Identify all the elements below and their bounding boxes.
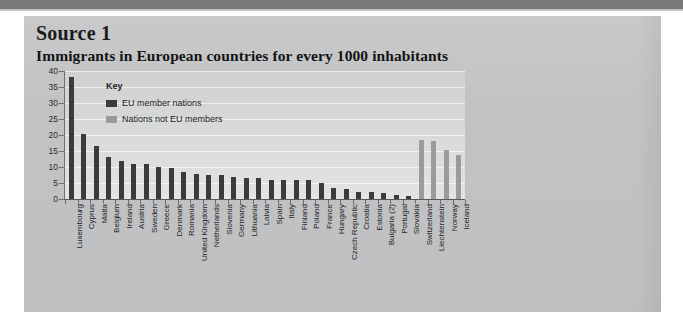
bar — [431, 141, 436, 199]
x-axis-label: Czech Republic — [350, 204, 359, 260]
x-axis-label: Sweden — [150, 204, 159, 233]
bar — [269, 180, 274, 199]
legend-swatch-non — [106, 116, 117, 123]
bar — [394, 195, 399, 199]
x-axis-label: Estonia — [375, 204, 384, 231]
legend-items: EU member nationsNations not EU members — [106, 98, 281, 124]
x-axis-label: Greece — [162, 204, 171, 230]
y-tick-mark — [59, 71, 64, 72]
x-axis-label: Cyprus — [87, 204, 96, 229]
x-axis-labels: LuxembourgCyprusMaltaBelgiumIrelandAustr… — [65, 204, 465, 296]
y-tick-mark — [59, 199, 64, 200]
y-tick-mark — [59, 87, 64, 88]
x-axis-label: Malta — [100, 204, 109, 224]
x-axis-label: Slovenia — [225, 204, 234, 235]
bar — [244, 178, 249, 199]
y-tick-mark — [59, 135, 64, 136]
legend-swatch-eu — [106, 100, 117, 107]
source-title: Source 1 — [36, 22, 111, 45]
bar — [219, 175, 224, 199]
x-axis-label: Portugal — [400, 204, 409, 234]
x-axis-label: France — [325, 204, 334, 229]
legend-item: Nations not EU members — [106, 114, 281, 124]
x-axis-label: Ireland — [125, 204, 134, 228]
y-tick-mark — [59, 151, 64, 152]
x-axis-label: Hungary — [337, 204, 346, 234]
x-axis-label: Luxembourg — [75, 204, 84, 248]
x-axis-label: Bulgaria (2) — [387, 204, 396, 245]
bar — [331, 188, 336, 199]
x-axis-label: United Kingdom — [200, 204, 209, 261]
bar — [256, 178, 261, 199]
x-axis-label: Latvia — [262, 204, 271, 225]
bar — [319, 183, 324, 199]
x-axis-label: Spain — [275, 204, 284, 224]
bar — [156, 167, 161, 199]
bar — [294, 180, 299, 199]
x-axis-label: Liechtenstein — [437, 204, 446, 251]
top-decorative-band — [0, 0, 683, 9]
bar — [131, 164, 136, 199]
y-tick-label: 40 — [18, 67, 58, 76]
y-tick-label: 10 — [18, 163, 58, 172]
legend-item: EU member nations — [106, 98, 281, 108]
x-axis-label: Lithuania — [250, 204, 259, 236]
y-tick-label: 25 — [18, 115, 58, 124]
top-band-shadow — [0, 9, 683, 11]
legend-title: Key — [106, 81, 281, 91]
y-tick-mark — [59, 103, 64, 104]
bar — [231, 177, 236, 199]
x-axis-label: Norway — [450, 204, 459, 231]
y-tick-mark — [59, 183, 64, 184]
x-axis-label: Croatia — [362, 204, 371, 230]
x-axis-label: Poland — [312, 204, 321, 229]
bar — [81, 134, 86, 199]
x-axis-label: Austria — [137, 204, 146, 229]
bar — [406, 196, 411, 199]
bar — [281, 180, 286, 199]
legend-label: EU member nations — [122, 98, 202, 108]
x-axis-label: Netherlands — [212, 204, 221, 247]
y-tick-label: 35 — [18, 83, 58, 92]
content-panel: Source 1 Immigrants in European countrie… — [24, 16, 661, 312]
bar — [381, 193, 386, 199]
y-tick-label: 0 — [18, 195, 58, 204]
y-tick-label: 30 — [18, 99, 58, 108]
bar — [194, 174, 199, 199]
bar — [306, 180, 311, 199]
bar — [444, 150, 449, 199]
bar — [344, 189, 349, 199]
bar — [456, 155, 461, 199]
chart-legend: Key EU member nationsNations not EU memb… — [106, 81, 281, 130]
bar — [169, 168, 174, 199]
immigration-bar-chart: 0510152025303540 LuxembourgCyprusMaltaBe… — [34, 71, 494, 301]
y-tick-mark — [59, 119, 64, 120]
y-tick-label: 5 — [18, 179, 58, 188]
bar — [69, 77, 74, 199]
x-axis-label: Germany — [237, 204, 246, 237]
x-axis-label: Belgium — [112, 204, 121, 233]
bar — [206, 175, 211, 199]
y-tick-mark — [59, 167, 64, 168]
x-axis-label: Romania — [187, 204, 196, 236]
bar — [119, 161, 124, 199]
bar — [144, 164, 149, 199]
source-subtitle: Immigrants in European countries for eve… — [36, 47, 448, 65]
bar — [369, 192, 374, 199]
bar — [356, 192, 361, 199]
screenshot-page: Source 1 Immigrants in European countrie… — [0, 0, 683, 316]
bar — [94, 146, 99, 199]
legend-label: Nations not EU members — [122, 114, 223, 124]
x-axis-label: Iceland — [462, 204, 471, 230]
y-tick-label: 15 — [18, 147, 58, 156]
bar — [181, 172, 186, 199]
bar — [419, 140, 424, 199]
y-tick-label: 20 — [18, 131, 58, 140]
x-axis-label: Denmark — [175, 204, 184, 236]
x-axis-label: Slovakia — [412, 204, 421, 234]
x-axis-label: Switzerland — [425, 204, 434, 245]
x-axis-label: Finland — [300, 204, 309, 230]
x-axis-label: Italy — [287, 204, 296, 219]
panel-right-fade — [635, 16, 661, 312]
bar — [106, 157, 111, 199]
